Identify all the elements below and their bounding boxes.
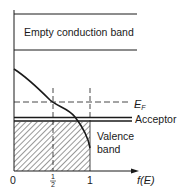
valence-band-label-line2: band <box>97 143 121 155</box>
x-axis-label: f(E) <box>137 174 155 186</box>
x-tick-half-numerator: 1 <box>51 173 55 180</box>
x-tick-half-denominator: 2 <box>51 181 55 187</box>
valence-band-label-line1: Valence <box>97 130 134 142</box>
conduction-band-label: Empty conduction band <box>24 26 134 38</box>
valence-band-fill <box>14 122 90 171</box>
band-diagram: Empty conduction band EF Acceptor Valenc… <box>0 0 182 187</box>
fermi-level-label: EF <box>134 98 146 111</box>
x-tick-0: 0 <box>10 174 16 186</box>
acceptor-label: Acceptor <box>135 113 177 125</box>
x-tick-1: 1 <box>87 174 93 186</box>
x-axis-arrow-icon <box>131 169 139 174</box>
